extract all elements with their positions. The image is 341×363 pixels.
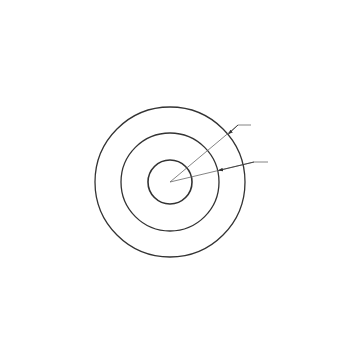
rock-mass-zones-diagram — [0, 0, 341, 363]
